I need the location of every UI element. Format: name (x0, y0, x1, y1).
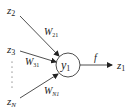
weight-wN1-label: WN1 (44, 85, 59, 97)
neuron-diagram: y1 z2 z3 zN W21 W31 WN1 f z1 (0, 0, 133, 112)
input-z3-label: z3 (6, 43, 15, 57)
output-z1-label: z1 (116, 59, 125, 73)
input-zN-label: zN (6, 95, 16, 109)
ellipsis-dots (11, 61, 12, 87)
input-z2-label: z2 (6, 4, 15, 18)
activation-label: f (94, 52, 98, 63)
weight-w21-label: W21 (44, 26, 58, 38)
weight-w31-label: W31 (25, 56, 39, 68)
